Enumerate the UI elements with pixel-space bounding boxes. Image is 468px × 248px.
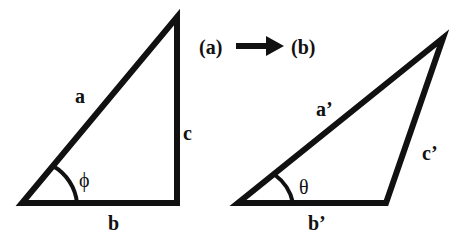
- side-label-b-prime: b’: [308, 213, 326, 233]
- triangle-b: [238, 38, 443, 203]
- right-arrow-icon: [236, 36, 284, 56]
- label-to-b: (b): [291, 37, 315, 57]
- label-from-a: (a): [199, 37, 222, 57]
- side-label-c-prime: c’: [422, 143, 438, 163]
- angle-label-theta: θ: [299, 177, 309, 197]
- diagram-shapes: [0, 0, 468, 248]
- angle-label-phi: ϕ: [79, 170, 90, 190]
- side-label-c: c: [183, 123, 192, 143]
- angle-arc-theta: [275, 175, 293, 203]
- angle-arc-phi: [53, 166, 77, 203]
- triangle-transformation-diagram: (a) (b) a c b ϕ a’ c’ b’ θ: [0, 0, 468, 248]
- side-label-b: b: [108, 213, 119, 233]
- side-label-a: a: [75, 86, 85, 106]
- side-label-a-prime: a’: [316, 99, 333, 119]
- triangle-a: [22, 17, 177, 203]
